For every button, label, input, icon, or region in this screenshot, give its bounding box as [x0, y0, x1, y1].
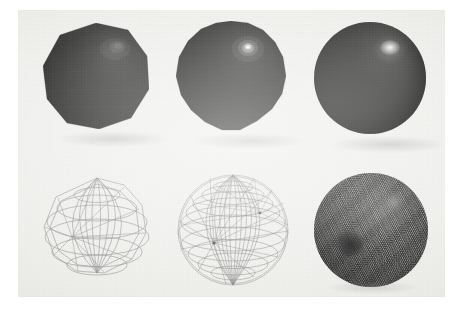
panel-shaded-sphere-fine — [314, 22, 445, 158]
moire-pattern-d — [314, 173, 428, 287]
contact-shadow — [330, 136, 445, 153]
panel-wireframe-sphere-medium — [176, 173, 290, 287]
far-pole-node — [259, 212, 262, 215]
contact-shadow — [59, 131, 169, 147]
sphere-coarse — [43, 23, 149, 129]
specular-highlight — [372, 34, 408, 64]
far-pole-cluster — [380, 191, 406, 213]
dense-disc-shading — [314, 173, 428, 287]
sphere-fine — [314, 22, 426, 134]
figure-plate — [18, 10, 445, 297]
panel-wireframe-sphere-fine — [314, 173, 430, 289]
moire-pattern-b — [314, 173, 428, 287]
figure-root — [0, 0, 464, 312]
near-pole-node — [212, 241, 215, 244]
sphere-medium-surface — [176, 21, 286, 131]
wireframe-coarse-mesh — [42, 175, 152, 285]
panel-shaded-sphere-coarse — [43, 23, 193, 153]
specular-core — [380, 40, 400, 55]
faceted-silhouette — [43, 23, 149, 129]
panel-shaded-sphere-medium — [176, 21, 326, 155]
wireframe-medium-mesh — [176, 173, 290, 287]
moire-pattern-a — [314, 173, 428, 287]
moire-pattern-c — [314, 173, 428, 287]
contact-shadow — [192, 133, 306, 149]
sphere-medium — [176, 21, 286, 131]
panel-wireframe-sphere-coarse — [42, 175, 152, 285]
dense-wireframe-disc — [314, 173, 428, 287]
near-pole-cluster — [336, 231, 364, 257]
sphere-fine-mesh — [314, 22, 426, 134]
